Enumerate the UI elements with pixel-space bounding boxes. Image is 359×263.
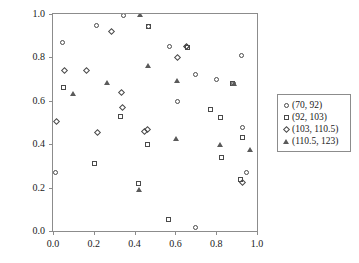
data-point — [175, 99, 180, 104]
data-point — [217, 142, 223, 147]
data-point — [61, 67, 68, 74]
data-point — [174, 54, 181, 61]
data-point — [121, 14, 126, 18]
square-marker-icon — [281, 111, 292, 123]
legend-item: (103, 110.5) — [281, 123, 346, 135]
x-axis-tick-label: 0.8 — [201, 238, 231, 249]
legend-marker — [284, 115, 289, 120]
y-axis-tick-label: 1.0 — [15, 8, 45, 19]
diamond-marker-icon — [281, 123, 292, 135]
legend-marker — [282, 125, 289, 132]
y-axis-tick — [49, 188, 53, 189]
legend-item: (110.5, 123) — [281, 135, 346, 147]
data-point — [146, 24, 151, 29]
x-axis-tick — [135, 231, 136, 235]
y-axis-tick-label: 0.0 — [15, 225, 45, 236]
x-axis-tick — [175, 231, 176, 235]
legend-item: (92, 103) — [281, 111, 346, 123]
data-point — [137, 14, 143, 17]
data-point — [145, 63, 151, 68]
x-axis-tick — [94, 231, 95, 235]
x-axis-tick — [216, 231, 217, 235]
legend-marker — [284, 103, 289, 108]
data-point — [94, 23, 99, 28]
x-axis-tick-label: 1.0 — [242, 238, 272, 249]
data-point — [118, 114, 123, 119]
data-point — [104, 80, 110, 85]
data-point — [60, 40, 65, 45]
data-point — [167, 44, 172, 49]
x-axis-tick-label: 0.2 — [79, 238, 109, 249]
data-point — [193, 72, 198, 77]
circle-marker-icon — [281, 99, 292, 111]
y-axis-tick — [49, 231, 53, 232]
data-point — [70, 91, 76, 96]
data-point — [53, 170, 58, 175]
data-point — [118, 89, 125, 96]
data-point — [214, 77, 219, 82]
data-point — [240, 125, 245, 130]
scatter-plot-figure: 0.00.20.40.60.81.00.00.20.40.60.81.0 (70… — [0, 0, 359, 263]
data-point — [173, 136, 179, 141]
x-axis-tick-label: 0.4 — [120, 238, 150, 249]
y-axis-tick — [49, 57, 53, 58]
x-axis-tick-label: 0.6 — [160, 238, 190, 249]
data-point — [92, 161, 97, 166]
legend-item-label: (70, 92) — [292, 99, 322, 111]
data-point — [240, 135, 245, 140]
data-point — [247, 147, 253, 152]
triangle-marker-icon — [281, 135, 292, 147]
y-axis-tick-label: 0.2 — [15, 182, 45, 193]
data-point — [208, 107, 213, 112]
plot-frame — [52, 13, 258, 232]
legend-item-label: (110.5, 123) — [292, 135, 338, 147]
data-point — [144, 126, 151, 133]
data-point — [83, 67, 90, 74]
y-axis-tick-label: 0.6 — [15, 95, 45, 106]
data-point — [174, 78, 180, 83]
data-point — [193, 225, 198, 230]
y-axis-tick — [49, 101, 53, 102]
x-axis-tick — [257, 231, 258, 235]
y-axis-tick-label: 0.4 — [15, 138, 45, 149]
x-axis-tick — [53, 231, 54, 235]
data-point — [108, 28, 115, 35]
data-point — [239, 53, 244, 58]
data-point — [239, 179, 246, 186]
data-point — [53, 118, 60, 125]
x-axis-tick-label: 0.0 — [38, 238, 68, 249]
data-point — [119, 104, 126, 111]
data-point — [166, 217, 171, 222]
y-axis-tick — [49, 144, 53, 145]
data-point — [244, 170, 249, 175]
plot-data-area — [53, 14, 257, 231]
data-point — [61, 85, 66, 90]
y-axis-tick — [49, 14, 53, 15]
legend-item-label: (92, 103) — [292, 111, 327, 123]
legend-box: (70, 92)(92, 103)(103, 110.5)(110.5, 123… — [277, 94, 351, 152]
data-point — [218, 115, 223, 120]
data-point — [136, 187, 142, 192]
legend-item-label: (103, 110.5) — [292, 123, 338, 135]
data-point — [219, 155, 224, 160]
data-point — [145, 142, 150, 147]
legend-marker — [283, 139, 289, 144]
legend-item: (70, 92) — [281, 99, 346, 111]
data-point — [231, 81, 237, 86]
y-axis-tick-label: 0.8 — [15, 51, 45, 62]
data-point — [136, 181, 141, 186]
data-point — [94, 129, 101, 136]
